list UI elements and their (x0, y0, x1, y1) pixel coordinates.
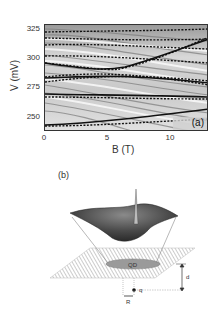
qd-label: QD (128, 262, 138, 268)
q-label: q (139, 287, 142, 293)
y-axis-label: V (mV) (9, 56, 20, 96)
heatmap-plot-area: (a) (44, 24, 208, 131)
y-tick: 325 (16, 24, 40, 33)
y-tick: 250 (16, 112, 40, 121)
y-tick: 300 (16, 53, 40, 62)
x-axis-label: B (T) (112, 144, 134, 155)
d-label: d (186, 274, 189, 280)
x-tick: 0 (34, 133, 54, 142)
panel-a-label: (a) (192, 117, 204, 128)
distance-r-marker (123, 278, 134, 296)
potential-surface-diagram: QD d q R (0, 160, 212, 310)
heatmap-image (45, 25, 208, 131)
x-tick: 5 (97, 133, 117, 142)
x-tick: 10 (160, 133, 180, 142)
y-tick: 275 (16, 82, 40, 91)
r-label: R (126, 299, 131, 305)
distance-d-marker (176, 264, 186, 291)
